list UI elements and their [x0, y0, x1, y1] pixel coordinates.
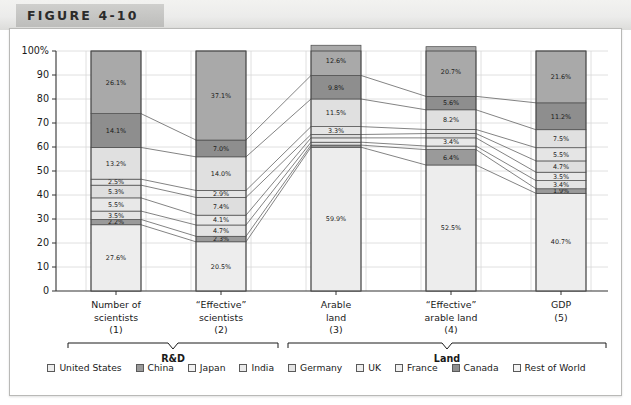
- bar-segment-label: 26.1%: [106, 79, 126, 87]
- stacked-bar-column: 52.5%6.4%3.4%8.2%5.6%20.7%: [426, 47, 476, 291]
- bar-segment-label: 40.7%: [551, 238, 571, 246]
- x-axis-category-line: (2): [214, 324, 227, 335]
- legend-item[interactable]: Canada: [452, 362, 499, 373]
- bar-segment-label: 4.1%: [213, 216, 229, 224]
- bar-segment-label: 27.6%: [106, 254, 126, 262]
- chart-legend: United StatesChinaJapanIndiaGermanyUKFra…: [10, 362, 623, 373]
- legend-label: France: [407, 362, 438, 373]
- bar-segment: [311, 142, 361, 145]
- bar-segment-label: 3.4%: [443, 138, 459, 146]
- bar-segment-label: 20.7%: [441, 68, 461, 76]
- x-axis-category-line: “Effective”: [426, 299, 477, 310]
- x-axis-category-line: (4): [444, 324, 457, 335]
- bar-segment-label: 59.9%: [326, 215, 346, 223]
- legend-item[interactable]: UK: [356, 362, 381, 373]
- bar-segment-label: 5.5%: [553, 151, 569, 159]
- x-axis-category-label: Arableland(3): [321, 299, 352, 335]
- x-axis-category-line: scientists: [199, 312, 243, 323]
- bar-segment-label: 3.3%: [328, 127, 344, 135]
- bar-segment: [426, 134, 476, 138]
- legend-swatch-icon: [513, 364, 521, 372]
- x-axis-category-line: (5): [554, 312, 567, 323]
- bar-segment-label: 9.8%: [328, 84, 344, 92]
- legend-swatch-icon: [452, 364, 460, 372]
- y-axis-tick-label: 20: [37, 237, 49, 248]
- y-axis-tick-label: 10: [37, 261, 49, 272]
- bar-segment-label: 3.5%: [553, 173, 569, 181]
- bar-segment-label: 7.5%: [553, 135, 569, 143]
- group-bracket: Land: [288, 343, 606, 364]
- legend-swatch-icon: [395, 364, 403, 372]
- stacked-bar-chart: 0102030405060708090100%27.6%2.2%3.5%5.5%…: [10, 29, 623, 397]
- x-axis-category-label: “Effective”arable land(4): [425, 299, 478, 335]
- legend-swatch-icon: [136, 364, 144, 372]
- figure-header-band: FIGURE 4-10: [0, 0, 631, 30]
- bar-segment-label: 13.2%: [106, 160, 126, 168]
- stacked-bar-column: 40.7%1.9%3.4%3.5%4.7%5.5%7.5%11.2%21.6%: [536, 51, 586, 291]
- x-axis-category-line: arable land: [425, 312, 478, 323]
- bar-segment-label: 4.7%: [213, 227, 229, 235]
- legend-item[interactable]: France: [395, 362, 438, 373]
- bar-segment-label: 2.5%: [108, 178, 124, 186]
- bar-segment-label: 12.6%: [326, 57, 346, 65]
- y-axis-tick-label: 70: [37, 117, 49, 128]
- bar-segment-label: 11.2%: [551, 113, 571, 121]
- y-axis-tick-label: 80: [37, 93, 49, 104]
- group-bracket: R&D: [68, 343, 278, 364]
- legend-item[interactable]: Japan: [188, 362, 226, 373]
- legend-swatch-icon: [188, 364, 196, 372]
- x-axis-category-line: Number of: [91, 299, 141, 310]
- bar-segment-label: 20.5%: [211, 263, 231, 271]
- legend-swatch-icon: [288, 364, 296, 372]
- legend-label: Japan: [200, 362, 226, 373]
- bar-segment-label: 6.4%: [443, 154, 459, 162]
- stacked-bar-column: 20.5%2.3%4.7%4.1%7.4%2.9%14.0%7.0%37.1%: [196, 51, 246, 291]
- bar-segment-label: 52.5%: [441, 224, 461, 232]
- bar-segment: [311, 138, 361, 142]
- bar-segment-label: 4.7%: [553, 163, 569, 171]
- x-axis-category-line: Arable: [321, 299, 352, 310]
- legend-item[interactable]: China: [136, 362, 174, 373]
- legend-item[interactable]: Rest of World: [513, 362, 586, 373]
- bar-segment-label: 5.5%: [108, 201, 124, 209]
- x-axis-category-line: GDP: [551, 299, 571, 310]
- y-axis-tick-label: 30: [37, 213, 49, 224]
- bar-segment-label: 7.4%: [213, 203, 229, 211]
- x-axis-category-line: (1): [109, 324, 122, 335]
- legend-swatch-icon: [47, 364, 55, 372]
- bar-segment-label: 5.6%: [443, 99, 459, 107]
- figure-frame: 0102030405060708090100%27.6%2.2%3.5%5.5%…: [9, 28, 622, 396]
- x-axis-category-line: land: [326, 312, 346, 323]
- chart-plot-area: 0102030405060708090100%27.6%2.2%3.5%5.5%…: [10, 29, 623, 397]
- x-axis-category-label: Number ofscientists(1): [91, 299, 141, 335]
- bar-segment-label: 14.0%: [211, 170, 231, 178]
- bar-segment-label: 5.3%: [108, 188, 124, 196]
- legend-label: Rest of World: [525, 362, 586, 373]
- bar-segment-label: 3.5%: [108, 212, 124, 220]
- figure-root: FIGURE 4-10 0102030405060708090100%27.6%…: [0, 0, 631, 405]
- bar-segment-label: 8.2%: [443, 116, 459, 124]
- legend-item[interactable]: United States: [47, 362, 121, 373]
- bar-segment-label: 2.9%: [213, 190, 229, 198]
- bar-segment-label: 7.0%: [213, 145, 229, 153]
- bar-segment-label: 37.1%: [211, 92, 231, 100]
- x-axis-category-line: (3): [329, 324, 342, 335]
- x-axis-category-label: “Effective”scientists(2): [196, 299, 247, 335]
- y-axis-tick-label: 40: [37, 189, 49, 200]
- x-axis-category-line: “Effective”: [196, 299, 247, 310]
- legend-label: China: [148, 362, 174, 373]
- legend-swatch-icon: [356, 364, 364, 372]
- legend-item[interactable]: Germany: [288, 362, 342, 373]
- x-axis-category-line: scientists: [94, 312, 138, 323]
- legend-item[interactable]: India: [239, 362, 274, 373]
- legend-label: UK: [368, 362, 381, 373]
- stacked-bar-column: 59.9%3.3%11.5%9.8%12.6%: [311, 45, 361, 291]
- legend-label: Germany: [300, 362, 342, 373]
- bar-segment-label: 3.4%: [553, 181, 569, 189]
- y-axis-tick-label: 90: [37, 69, 49, 80]
- bar-segment: [311, 135, 361, 138]
- bar-segment-label: 14.1%: [106, 127, 126, 135]
- y-axis-tick-label: 50: [37, 165, 49, 176]
- legend-swatch-icon: [239, 364, 247, 372]
- bar-segment: [426, 146, 476, 150]
